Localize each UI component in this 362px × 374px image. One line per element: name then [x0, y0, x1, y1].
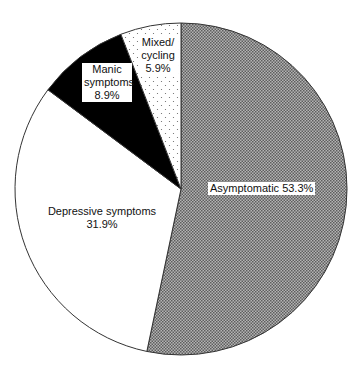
label-manic-value: 8.9%: [84, 89, 130, 102]
label-depressive-name: Depressive symptoms: [42, 205, 162, 218]
label-manic: Manic symptoms 8.9%: [82, 63, 132, 102]
label-depressive-value: 31.9%: [42, 218, 162, 231]
label-mixed-name1: Mixed/: [138, 36, 178, 49]
label-depressive: Depressive symptoms 31.9%: [42, 205, 162, 231]
label-asymptomatic: Asymptomatic 53.3%: [208, 182, 315, 195]
label-manic-name2: symptoms: [84, 76, 130, 89]
label-mixed: Mixed/ cycling 5.9%: [138, 36, 178, 75]
label-manic-name1: Manic: [84, 63, 130, 76]
label-mixed-value: 5.9%: [138, 62, 178, 75]
label-asymptomatic-text: Asymptomatic 53.3%: [210, 182, 313, 194]
label-mixed-name2: cycling: [138, 49, 178, 62]
